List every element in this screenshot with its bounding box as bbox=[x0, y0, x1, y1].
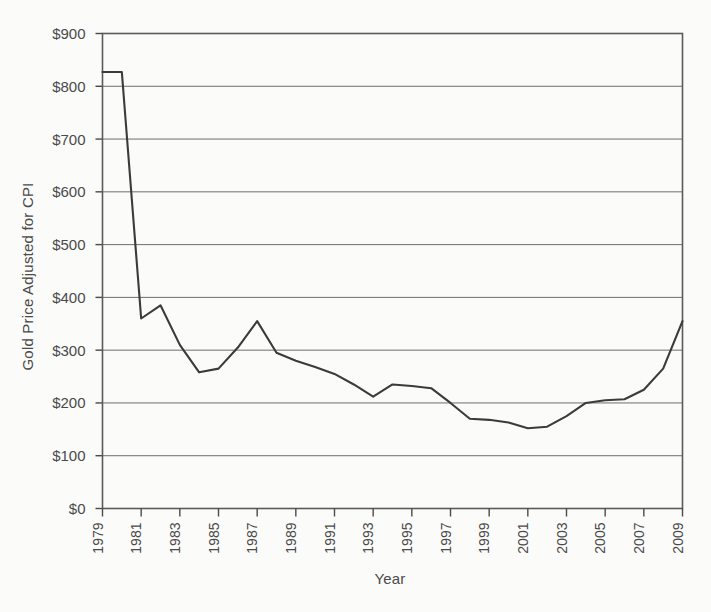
x-axis-tick-label: 1985 bbox=[206, 522, 222, 553]
x-axis-title: Year bbox=[300, 570, 480, 587]
x-axis-tick-label: 1991 bbox=[322, 522, 338, 553]
data-series-line bbox=[103, 72, 683, 428]
x-axis-tick-label: 2003 bbox=[554, 522, 570, 553]
x-axis-tick-label: 1993 bbox=[360, 522, 376, 553]
y-axis-tick-label: $700 bbox=[52, 131, 85, 148]
y-axis-tick-label: $600 bbox=[52, 183, 85, 200]
x-axis-tick-label: 1989 bbox=[283, 522, 299, 553]
plot-area-border bbox=[103, 34, 683, 509]
y-axis-tick-label: $100 bbox=[52, 447, 85, 464]
x-axis-tick-label: 2001 bbox=[515, 522, 531, 553]
x-axis-tick-label: 1981 bbox=[128, 522, 144, 553]
x-axis-tick-label: 1997 bbox=[438, 522, 454, 553]
x-axis-tick-label: 2009 bbox=[670, 522, 686, 553]
x-axis-tick-label: 1999 bbox=[476, 522, 492, 553]
x-axis-tick-label: 2005 bbox=[592, 522, 608, 553]
x-axis-tick-label: 1983 bbox=[167, 522, 183, 553]
line-chart: $900$800$700$600$500$400$300$200$100$019… bbox=[0, 0, 711, 612]
x-axis-tick-label: 2007 bbox=[631, 522, 647, 553]
y-axis-tick-label: $500 bbox=[52, 236, 85, 253]
y-axis-tick-label: $800 bbox=[52, 78, 85, 95]
y-axis-tick-label: $400 bbox=[52, 289, 85, 306]
y-axis-tick-label: $300 bbox=[52, 342, 85, 359]
y-axis-title: Gold Price Adjusted for CPI bbox=[19, 157, 36, 397]
y-axis-tick-label: $200 bbox=[52, 394, 85, 411]
x-axis-tick-label: 1995 bbox=[399, 522, 415, 553]
x-axis-tick-label: 1979 bbox=[90, 522, 106, 553]
y-axis-tick-label: $900 bbox=[52, 25, 85, 42]
x-axis-tick-label: 1987 bbox=[244, 522, 260, 553]
y-axis-tick-label: $0 bbox=[69, 500, 86, 517]
chart-container: $900$800$700$600$500$400$300$200$100$019… bbox=[0, 0, 711, 612]
